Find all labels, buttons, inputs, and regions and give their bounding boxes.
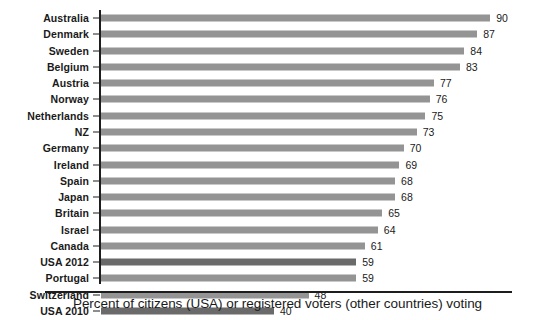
bar-row: USA 201259 <box>0 254 555 270</box>
bar-row: Britain65 <box>0 205 555 221</box>
axis-tick <box>93 34 100 35</box>
bar <box>101 194 395 201</box>
axis-tick <box>93 131 100 132</box>
category-label: Austria <box>52 78 89 89</box>
bar <box>101 96 430 103</box>
category-label: Norway <box>50 94 89 105</box>
bar-row: Norway76 <box>0 91 555 107</box>
bar <box>101 259 356 266</box>
category-label: Netherlands <box>27 110 89 121</box>
bar <box>101 80 434 87</box>
category-label: Germany <box>43 143 89 154</box>
chart-caption: Percent of citizens (USA) or registered … <box>0 296 555 312</box>
bar-value-label: 76 <box>436 94 448 105</box>
axis-tick <box>93 229 100 230</box>
bar <box>101 161 399 168</box>
category-label: Denmark <box>43 29 89 40</box>
bar-value-label: 83 <box>466 62 478 73</box>
axis-tick <box>93 50 100 51</box>
category-label: USA 2012 <box>40 257 89 268</box>
bar <box>101 275 356 282</box>
bar <box>101 47 464 54</box>
x-axis-rule <box>45 291 512 293</box>
bar-value-label: 73 <box>423 127 435 138</box>
category-label: Australia <box>43 13 89 24</box>
category-label: Sweden <box>49 45 89 56</box>
bar <box>101 128 417 135</box>
bar <box>101 15 490 22</box>
bar-value-label: 69 <box>405 159 417 170</box>
bar-row: Japan68 <box>0 189 555 205</box>
bar-row: Germany70 <box>0 140 555 156</box>
category-label: Belgium <box>47 62 89 73</box>
axis-tick <box>93 164 100 165</box>
axis-tick <box>93 18 100 19</box>
bar-row: Belgium83 <box>0 59 555 75</box>
bar-value-label: 75 <box>431 110 443 121</box>
axis-tick <box>93 180 100 181</box>
bar-row: NZ73 <box>0 124 555 140</box>
axis-tick <box>93 197 100 198</box>
category-label: Israel <box>61 224 89 235</box>
bar-row: Sweden84 <box>0 43 555 59</box>
bar-row: Austria77 <box>0 75 555 91</box>
bar-value-label: 64 <box>384 224 396 235</box>
bar-chart-figure: Australia90Denmark87Sweden84Belgium83Aus… <box>0 0 555 320</box>
bar-value-label: 87 <box>483 29 495 40</box>
axis-tick <box>93 148 100 149</box>
axis-tick <box>93 213 100 214</box>
bar-row: Netherlands75 <box>0 108 555 124</box>
category-label: Britain <box>55 208 89 219</box>
category-label: NZ <box>75 127 89 138</box>
bar-row: Spain68 <box>0 173 555 189</box>
bar-row: Ireland69 <box>0 157 555 173</box>
axis-tick <box>93 262 100 263</box>
bar <box>101 145 404 152</box>
category-label: Canada <box>50 241 89 252</box>
axis-tick <box>93 115 100 116</box>
bar <box>101 31 477 38</box>
bar-value-label: 70 <box>410 143 422 154</box>
bar-value-label: 59 <box>362 273 374 284</box>
bar <box>101 226 378 233</box>
bar-value-label: 59 <box>362 257 374 268</box>
category-label: Portugal <box>46 273 89 284</box>
bar-row: Israel64 <box>0 222 555 238</box>
bar-value-label: 90 <box>496 13 508 24</box>
axis-tick <box>93 278 100 279</box>
bar-value-label: 77 <box>440 78 452 89</box>
bar-row: Australia90 <box>0 10 555 26</box>
bar <box>101 63 460 70</box>
category-label: Japan <box>58 192 89 203</box>
category-label: Spain <box>60 176 89 187</box>
bar-row: Canada61 <box>0 238 555 254</box>
bar-row: Denmark87 <box>0 26 555 42</box>
bar-value-label: 65 <box>388 208 400 219</box>
bar <box>101 210 382 217</box>
bar <box>101 177 395 184</box>
bar <box>101 242 365 249</box>
bar-value-label: 84 <box>470 45 482 56</box>
axis-tick <box>93 99 100 100</box>
category-label: Ireland <box>54 159 89 170</box>
axis-tick <box>93 83 100 84</box>
bar-value-label: 68 <box>401 192 413 203</box>
bar-value-label: 68 <box>401 176 413 187</box>
bar-value-label: 61 <box>371 241 383 252</box>
bar <box>101 112 425 119</box>
axis-tick <box>93 66 100 67</box>
plot-area: Australia90Denmark87Sweden84Belgium83Aus… <box>0 0 555 288</box>
axis-tick <box>93 245 100 246</box>
bar-row: Portugal59 <box>0 270 555 286</box>
